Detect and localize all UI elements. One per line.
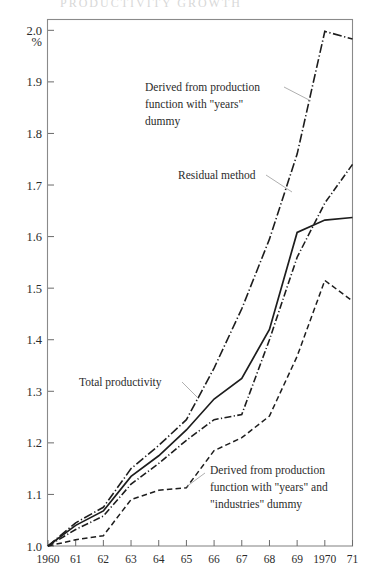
y-tick-label-1.7: 1.7 [26, 179, 42, 193]
annotation-leaders [182, 87, 311, 487]
annotation-prod-years-line-1: Derived from production [145, 81, 260, 94]
annotation-total-line-1: Total productivity [79, 376, 162, 389]
x-axis-tick-labels: 1960616263646566676869197071 [37, 553, 359, 565]
line-chart-canvas: 1.01.11.21.31.41.51.61.71.81.92.0 % 1960… [0, 0, 377, 578]
y-axis-unit-label: % [32, 35, 42, 49]
leader-line-prod-years [284, 87, 311, 101]
y-tick-label-1.9: 1.9 [26, 75, 42, 89]
annotation-prod-years-industries: Derived from production function with "y… [210, 464, 328, 511]
x-tick-label-65: 65 [181, 553, 193, 565]
x-tick-label-61: 61 [70, 553, 82, 565]
x-tick-label-67: 67 [236, 553, 248, 565]
annotation-prod-years-line-2: function with "years" [145, 98, 243, 111]
annotation-prod-years-line-3: dummy [145, 115, 180, 128]
y-tick-label-1.2: 1.2 [26, 436, 42, 450]
x-tick-label-68: 68 [264, 553, 276, 565]
annotation-prod-years-ind-line-2: function with "years" and [210, 481, 328, 494]
annotation-residual-line-1: Residual method [178, 169, 256, 181]
y-tick-label-1.0: 1.0 [26, 540, 42, 554]
annotation-prod-years-ind-line-1: Derived from production [210, 464, 325, 477]
series-line-3 [48, 280, 353, 546]
x-tick-label-1970: 1970 [313, 553, 336, 565]
y-tick-label-1.6: 1.6 [26, 230, 42, 244]
annotation-total-productivity: Total productivity [79, 376, 162, 389]
x-axis-ticks [48, 540, 353, 546]
y-tick-label-1.5: 1.5 [26, 282, 42, 296]
y-tick-label-1.3: 1.3 [26, 385, 42, 399]
y-tick-label-1.4: 1.4 [26, 333, 42, 347]
annotation-residual: Residual method [178, 169, 256, 181]
productivity-growth-figure: PRODUCTIVITY GROWTH 1.01.11.21.31.41.51.… [0, 0, 377, 578]
x-tick-label-62: 62 [98, 553, 110, 565]
y-axis-ticks [48, 30, 54, 546]
x-tick-label-63: 63 [125, 553, 137, 565]
x-tick-label-71: 71 [347, 553, 359, 565]
y-tick-label-1.8: 1.8 [26, 127, 42, 141]
x-tick-label-1960: 1960 [37, 553, 60, 565]
x-tick-label-66: 66 [208, 553, 220, 565]
x-tick-label-69: 69 [291, 553, 303, 565]
annotation-prod-years-ind-line-3: "industries" dummy [210, 498, 302, 511]
annotation-prod-years: Derived from production function with "y… [145, 81, 260, 128]
x-tick-label-64: 64 [153, 553, 165, 565]
leader-line-total [182, 382, 199, 399]
y-tick-label-1.1: 1.1 [26, 488, 42, 502]
y-axis-tick-labels: 1.01.11.21.31.41.51.61.71.81.92.0 [26, 24, 42, 554]
